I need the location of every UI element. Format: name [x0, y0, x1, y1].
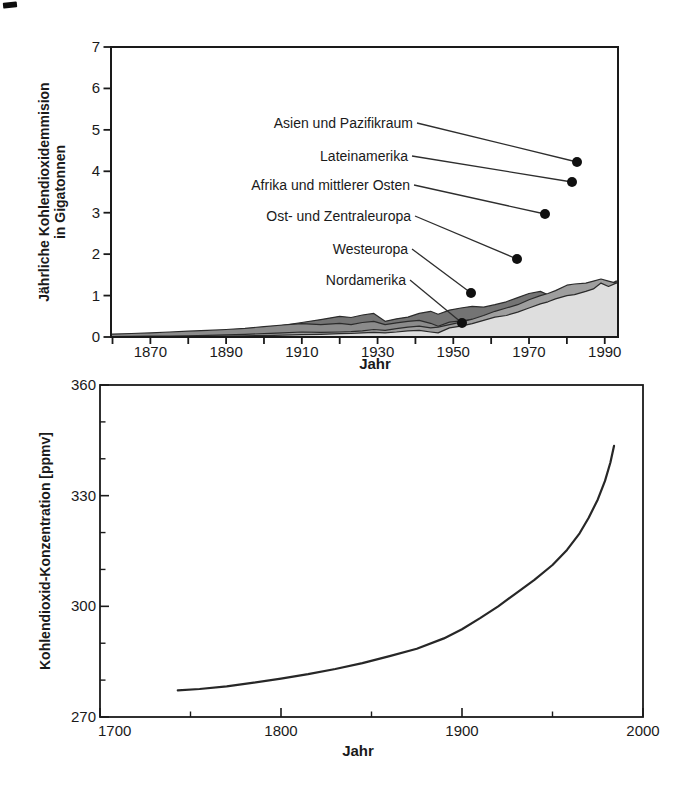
y-tick-label: 270	[71, 708, 96, 725]
region-label: Ost- und Zentraleuropa	[266, 208, 411, 224]
x-tick-label: 1890	[209, 343, 242, 360]
dot-marker	[572, 157, 582, 167]
y-tick-label: 5	[92, 121, 100, 138]
x-tick-label: 1900	[445, 722, 478, 739]
y-tick-label: 4	[92, 162, 100, 179]
y-tick-label: 300	[71, 597, 96, 614]
region-label: Westeuropa	[333, 241, 408, 257]
dot-marker	[466, 288, 476, 298]
emissions-x-axis-title: Jahr	[345, 355, 405, 372]
x-tick-label: 1800	[264, 722, 297, 739]
y-tick-label: 3	[92, 204, 100, 221]
leader-line	[415, 216, 517, 259]
x-tick-label: 2000	[626, 722, 659, 739]
y-tick-label: 2	[92, 245, 100, 262]
y-tick-label: 0	[92, 328, 100, 345]
y-tick-label: 1	[92, 287, 100, 304]
dot-marker	[512, 254, 522, 264]
x-tick-label: 1970	[512, 343, 545, 360]
leader-line	[412, 249, 471, 293]
dot-marker	[540, 209, 550, 219]
leader-line	[412, 156, 572, 182]
leader-line	[414, 185, 545, 214]
x-tick-label: 1990	[588, 343, 621, 360]
leader-line	[417, 123, 577, 162]
region-label: Afrika und mittlerer Osten	[251, 177, 410, 193]
co2-curve	[178, 446, 614, 691]
x-tick-label: 1870	[134, 343, 167, 360]
concentration-chart: 1700180019002000270300330360	[71, 376, 660, 739]
emissions-y-axis-title: Jährliche Kohlendioxidemmision in Gigato…	[36, 62, 68, 322]
region-label: Asien und Pazifikraum	[274, 115, 413, 131]
concentration-x-axis-title: Jahr	[328, 742, 388, 759]
plot-frame	[100, 385, 643, 717]
co2-figure: 187018901910193019501970199001234567Asie…	[0, 0, 697, 787]
region-label: Lateinamerika	[320, 148, 408, 164]
emissions-chart: 187018901910193019501970199001234567Asie…	[92, 38, 622, 360]
region-label: Nordamerika	[326, 272, 406, 288]
dot-marker	[457, 318, 467, 328]
dot-marker	[567, 177, 577, 187]
y-tick-label: 360	[71, 376, 96, 393]
concentration-y-axis-title: Kohlendioxid-Konzentration [ppmv]	[37, 401, 55, 701]
y-tick-label: 6	[92, 79, 100, 96]
charts-canvas: 187018901910193019501970199001234567Asie…	[0, 0, 697, 787]
y-tick-label: 330	[71, 487, 96, 504]
y-tick-label: 7	[92, 38, 100, 55]
x-tick-label: 1700	[98, 722, 131, 739]
x-tick-label: 1950	[437, 343, 470, 360]
x-tick-label: 1910	[285, 343, 318, 360]
emissions-y-axis-title-line2: in Gigatonnen	[52, 145, 68, 239]
emissions-y-axis-title-line1: Jährliche Kohlendioxidemmision	[36, 82, 52, 301]
